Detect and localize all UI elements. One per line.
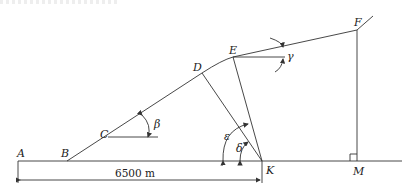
right-angle-mark <box>350 154 357 161</box>
beta-arc <box>142 115 149 137</box>
label-k: K <box>265 164 275 177</box>
angle-beta: β <box>153 118 160 131</box>
angle-epsilon: ε <box>224 130 230 143</box>
dimension-label: 6500 m <box>115 167 155 179</box>
label-m: M <box>352 165 365 178</box>
gamma-arrow-top <box>270 38 283 47</box>
line-e-f <box>233 30 357 57</box>
angle-delta: δ <box>236 142 243 155</box>
label-b: B <box>60 147 69 160</box>
label-d: D <box>192 61 202 74</box>
geometry-diagram: A B C D E F K M β γ ε δ 6500 m <box>0 0 415 194</box>
label-c: C <box>100 128 109 141</box>
gamma-arrow-bottom <box>275 59 283 72</box>
line-d-k <box>202 73 262 161</box>
label-e: E <box>228 44 237 57</box>
curve-d-e <box>202 57 233 73</box>
angle-gamma: γ <box>287 50 294 63</box>
slope-b-d <box>67 73 202 161</box>
label-a: A <box>16 147 25 160</box>
label-f: F <box>353 16 362 29</box>
